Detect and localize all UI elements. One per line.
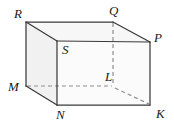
vertex-label-M: M: [8, 80, 19, 93]
vertex-label-K: K: [156, 107, 165, 120]
vertex-label-S: S: [62, 43, 69, 56]
vertex-label-P: P: [154, 31, 162, 44]
vertex-label-Q: Q: [109, 4, 118, 17]
front-face: [57, 41, 150, 105]
vertex-label-L: L: [105, 70, 112, 83]
vertex-label-R: R: [14, 7, 22, 20]
geometry-figure: R Q S P M L N K: [0, 0, 174, 126]
cuboid-faces: [26, 22, 150, 105]
cuboid-svg: [0, 0, 174, 126]
vertex-label-N: N: [56, 108, 65, 121]
